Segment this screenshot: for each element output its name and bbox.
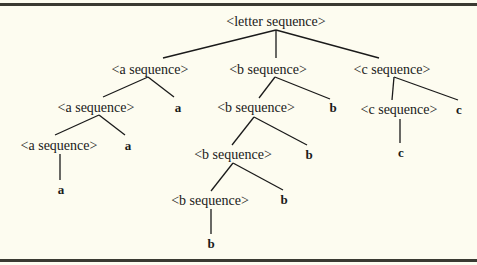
node-b-sequence-3: <b sequence>	[194, 147, 272, 163]
node-c-sequence-2: <c sequence>	[361, 102, 438, 118]
node-c-sequence-1: <c sequence>	[354, 62, 431, 78]
edge-c1-c2	[392, 77, 394, 100]
leaf-b-3: b	[305, 147, 312, 163]
edge-root-a1	[163, 30, 276, 58]
leaf-c-2: c	[456, 102, 462, 118]
node-a-sequence-2: <a sequence>	[58, 100, 135, 116]
tree-edges	[0, 0, 477, 265]
edge-b1-b2_leaf	[275, 77, 330, 99]
node-a-sequence-3: <a sequence>	[21, 138, 98, 154]
leaf-b-2: b	[329, 100, 336, 116]
leaf-a-3: a	[125, 138, 132, 154]
leaf-c-3: c	[398, 145, 404, 161]
leaf-a-4: a	[58, 182, 65, 198]
edge-root-c1	[276, 30, 379, 58]
edge-b2-b3_leaf	[254, 117, 307, 145]
node-b-sequence-4: <b sequence>	[171, 193, 249, 209]
edge-b3-b4	[211, 163, 233, 191]
edge-b1-b2	[259, 77, 275, 98]
leaf-a-2: a	[175, 100, 182, 116]
edge-a1-a2_leaf	[148, 77, 174, 97]
leaf-b-5: b	[207, 236, 214, 252]
node-root: <letter sequence>	[226, 14, 325, 30]
edge-b2-b3	[232, 117, 254, 145]
node-a-sequence-1: <a sequence>	[112, 62, 189, 78]
leaf-b-4: b	[280, 192, 287, 208]
edge-b3-b4_leaf	[233, 163, 283, 190]
edge-a2-a3_leaf	[99, 115, 125, 135]
node-b-sequence-1: <b sequence>	[229, 62, 307, 78]
edge-a2-a3	[55, 115, 99, 135]
diagram-frame: <letter sequence> <a sequence> <b sequen…	[0, 0, 477, 265]
node-b-sequence-2: <b sequence>	[217, 100, 295, 116]
edge-a1-a2	[103, 77, 148, 97]
edge-c1-c2_leaf	[394, 77, 458, 100]
